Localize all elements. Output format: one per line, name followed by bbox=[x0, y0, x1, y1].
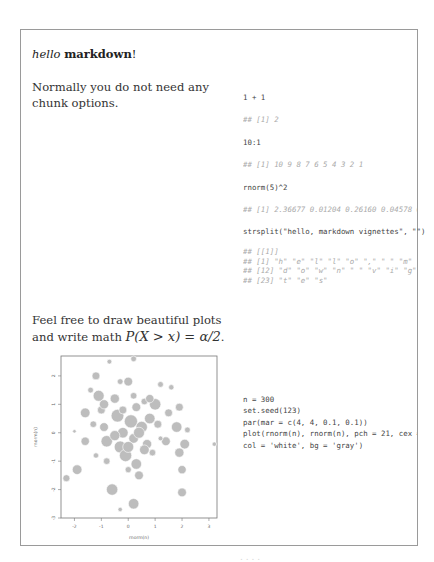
scatter-point bbox=[93, 390, 104, 401]
scatter-point bbox=[178, 488, 187, 497]
scatter-point bbox=[146, 394, 154, 402]
scatter-point bbox=[119, 406, 127, 414]
scatter-point bbox=[110, 394, 119, 403]
code-line: plot(rnorm(n), rnorm(n), pch = 21, cex =… bbox=[243, 428, 417, 439]
y-tick-label: 2 bbox=[51, 374, 56, 377]
scatter-point bbox=[171, 422, 182, 433]
scatter-point bbox=[165, 409, 173, 417]
x-tick-label: -1 bbox=[99, 524, 104, 529]
x-tick-label: 1 bbox=[154, 524, 157, 529]
scatter-point bbox=[107, 359, 112, 364]
code-line: 1 + 1 bbox=[243, 92, 265, 103]
scatter-point bbox=[110, 431, 120, 441]
scatter-point bbox=[149, 449, 156, 456]
title-suffix: ! bbox=[132, 47, 137, 61]
para-suffix: . bbox=[221, 330, 225, 344]
scatter-plot: -2-10123 -3-2-1012 rnorm(n) rnorm(n) bbox=[22, 352, 227, 544]
y-tick-label: -2 bbox=[51, 487, 56, 492]
scatter-point bbox=[130, 392, 137, 399]
scatter-point bbox=[73, 430, 77, 434]
code-line: set.seed(123) bbox=[243, 405, 417, 416]
scatter-point bbox=[81, 437, 89, 445]
code-line: n = 300 bbox=[243, 394, 417, 405]
scatter-point bbox=[158, 436, 163, 441]
x-tick-label: 3 bbox=[207, 524, 210, 529]
scatter-point bbox=[178, 466, 186, 474]
paragraph-chunk-options: Normally you do not need any chunk optio… bbox=[32, 80, 232, 111]
scatter-point bbox=[117, 379, 123, 385]
scatter-point bbox=[154, 420, 162, 428]
scatter-point bbox=[169, 385, 174, 390]
math-expression: P(X > x) = α/2 bbox=[126, 329, 221, 344]
scatter-point bbox=[100, 423, 109, 432]
x-tick-label: 2 bbox=[181, 524, 184, 529]
y-axis-ticks: -3-2-1012 bbox=[51, 374, 61, 520]
scatter-point bbox=[185, 427, 191, 433]
scatter-point bbox=[99, 400, 108, 409]
paragraph-plots-math: Feel free to draw beautiful plots and wr… bbox=[32, 313, 242, 345]
scatter-point bbox=[132, 403, 141, 412]
x-axis-label: rnorm(n) bbox=[129, 535, 149, 540]
scatter-point bbox=[131, 459, 142, 470]
code-line: par(mar = c(4, 4, 0.1, 0.1)) bbox=[243, 417, 417, 428]
code-output: ## [1] 2.36677 0.01204 0.26160 0.04578 0… bbox=[243, 205, 417, 215]
scatter-point bbox=[106, 484, 117, 495]
scatter-point bbox=[134, 427, 145, 438]
scatter-point bbox=[135, 471, 144, 480]
scatter-point bbox=[175, 403, 183, 411]
scatter-point bbox=[180, 439, 190, 449]
code-output: ## [1] 10 9 8 7 6 5 4 3 2 1 bbox=[243, 160, 417, 170]
scatter-point bbox=[175, 448, 184, 457]
scatter-point bbox=[125, 467, 131, 473]
scatter-point bbox=[124, 377, 133, 386]
scatter-point bbox=[92, 372, 100, 380]
scatter-point bbox=[103, 458, 110, 465]
scatter-point bbox=[118, 507, 122, 511]
x-tick-label: 0 bbox=[127, 524, 130, 529]
code-output: ## [23] "t" "e" "s" bbox=[243, 276, 417, 286]
y-tick-label: -3 bbox=[51, 516, 56, 521]
code-output: ## [1] 2 bbox=[243, 115, 417, 125]
cropped-footer-text: . . . . bbox=[240, 552, 260, 562]
scatter-point bbox=[72, 465, 82, 475]
scatter-point bbox=[93, 453, 98, 458]
x-tick-label: -2 bbox=[72, 524, 77, 529]
scatter-point bbox=[80, 408, 90, 418]
scatter-point bbox=[90, 421, 97, 428]
x-axis-ticks: -2-10123 bbox=[72, 518, 210, 529]
scatter-point bbox=[212, 442, 216, 446]
code-output: ## [12] "d" "o" "w" "n" " " "v" "i" "g" … bbox=[243, 266, 417, 276]
scatter-point bbox=[124, 415, 137, 428]
code-line: col = 'white', bg = 'gray') bbox=[243, 440, 417, 451]
scatter-point bbox=[144, 413, 155, 424]
y-tick-label: 0 bbox=[51, 431, 56, 434]
scatter-point bbox=[131, 356, 137, 362]
scatter-point bbox=[140, 445, 150, 455]
doc-title: hello markdown! bbox=[32, 47, 136, 61]
code-line: strsplit("hello, markdown vignettes", ""… bbox=[243, 226, 425, 237]
title-italic: hello bbox=[32, 47, 61, 61]
scatter-point bbox=[63, 475, 70, 482]
scatter-point bbox=[158, 382, 164, 388]
code-block-plot: n = 300 set.seed(123) par(mar = c(4, 4, … bbox=[243, 394, 417, 451]
y-axis-label: rnorm(n) bbox=[33, 427, 38, 447]
code-output: ## [[1]] bbox=[243, 247, 417, 257]
code-line: 10:1 bbox=[243, 137, 261, 148]
code-line: rnorm(5)^2 bbox=[243, 182, 288, 193]
title-bold: markdown bbox=[64, 47, 132, 61]
scatter-point bbox=[128, 499, 139, 510]
scatter-point bbox=[88, 387, 94, 393]
y-tick-label: 1 bbox=[51, 403, 56, 406]
code-output: ## [1] "h" "e" "l" "l" "o" "," " " "m" "… bbox=[243, 257, 417, 267]
y-tick-label: -1 bbox=[51, 459, 56, 464]
scatter-point bbox=[123, 441, 134, 452]
